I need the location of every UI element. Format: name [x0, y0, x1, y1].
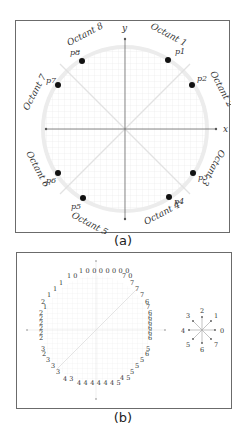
- direction-3: 3: [186, 312, 190, 320]
- svg-text:5: 5: [130, 368, 134, 376]
- direction-7: 7: [214, 341, 218, 349]
- direction-legend: 0 1 2 3 4 5 6 7: [181, 307, 224, 354]
- svg-text:5: 5: [135, 362, 139, 370]
- chain-code-panel: 1 0 0 0 0 0 0 0 1 0 7 0 7 7 7 6 7 6 6 6 …: [16, 252, 232, 409]
- octant-8-label: Octant 8: [65, 21, 105, 48]
- octant-diagram: x y p1 p2 p3 p4 p5 p6 p7 p8 Octant 1 Oc: [16, 21, 231, 234]
- point-p5: [80, 195, 86, 201]
- code-bottom-right: 4 5: [120, 374, 130, 382]
- code-bottom: 4 4 4 4 4 4 5: [77, 379, 121, 387]
- point-p8: [79, 58, 85, 64]
- point-p3: [190, 170, 196, 176]
- svg-text:2: 2: [39, 334, 43, 342]
- svg-text:3: 3: [56, 368, 60, 376]
- label-p8: p8: [70, 48, 80, 57]
- direction-2: 2: [200, 307, 204, 315]
- point-p2: [189, 82, 195, 88]
- x-axis-label: x: [223, 124, 228, 134]
- pixel-grid: [36, 41, 216, 221]
- octant-diagram-panel: x y p1 p2 p3 p4 p5 p6 p7 p8 Octant 1 Oc: [15, 20, 230, 233]
- direction-6: 6: [200, 346, 204, 354]
- code-bottom-left: 4 3: [63, 375, 73, 383]
- label-p2: p2: [197, 74, 207, 83]
- point-p4: [166, 194, 172, 200]
- svg-text:6: 6: [145, 350, 149, 358]
- direction-5: 5: [186, 341, 190, 349]
- direction-0: 0: [220, 327, 224, 335]
- label-p1: p1: [175, 47, 185, 56]
- octant-2-label: Octant 2: [208, 69, 231, 109]
- octant-5-label: Octant 5: [70, 210, 110, 234]
- svg-text:7: 7: [140, 291, 144, 299]
- caption-a: (a): [103, 233, 143, 248]
- svg-text:3: 3: [46, 356, 50, 364]
- svg-text:7: 7: [130, 279, 134, 287]
- caption-b: (b): [103, 410, 143, 425]
- svg-text:1: 1: [43, 303, 47, 311]
- svg-text:1: 1: [53, 285, 57, 293]
- direction-1: 1: [214, 312, 218, 320]
- direction-4: 4: [181, 327, 185, 335]
- point-p1: [165, 57, 171, 63]
- chain-code-diagram: 1 0 0 0 0 0 0 0 1 0 7 0 7 7 7 6 7 6 6 6 …: [17, 253, 233, 410]
- svg-text:7: 7: [135, 285, 139, 293]
- svg-text:1: 1: [59, 279, 63, 287]
- octant-1-label: Octant 1: [149, 21, 188, 48]
- svg-text:5: 5: [140, 356, 144, 364]
- y-axis-label: y: [121, 23, 128, 33]
- svg-text:6: 6: [148, 334, 152, 342]
- code-top-left: 1 0: [67, 272, 77, 280]
- svg-text:1: 1: [47, 291, 51, 299]
- svg-text:3: 3: [51, 362, 55, 370]
- svg-text:3: 3: [41, 345, 45, 353]
